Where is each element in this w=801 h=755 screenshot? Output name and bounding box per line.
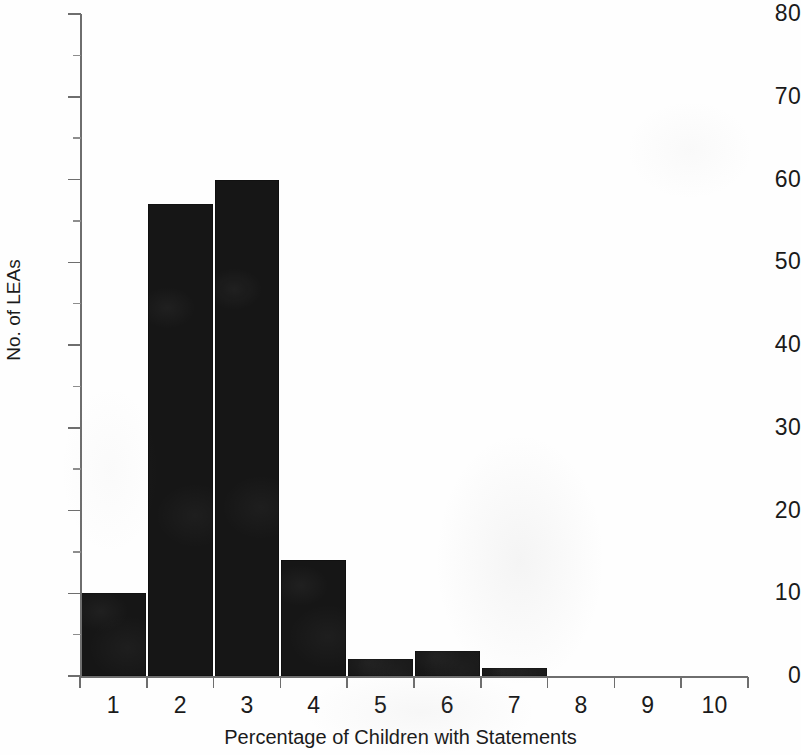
- bar: [482, 668, 547, 676]
- x-tick: [547, 677, 549, 688]
- y-tick-minor: [73, 137, 81, 139]
- x-tick-label: 7: [481, 692, 548, 718]
- x-tick: [79, 677, 81, 688]
- y-tick-major: [68, 13, 81, 15]
- x-tick: [346, 677, 348, 688]
- histogram-figure: 01020304050607080 12345678910 No. of LEA…: [0, 0, 801, 755]
- bar: [348, 659, 413, 676]
- y-tick-minor: [73, 386, 81, 388]
- y-tick-minor: [73, 468, 81, 470]
- y-tick-label: 0: [741, 664, 801, 687]
- x-tick-label: 8: [548, 692, 615, 718]
- bar: [148, 204, 213, 676]
- y-tick-major: [68, 179, 81, 181]
- y-tick-minor: [73, 303, 81, 305]
- y-tick-label: 50: [741, 250, 801, 273]
- y-tick-minor: [73, 220, 81, 222]
- y-tick-major: [68, 593, 81, 595]
- y-tick-label: 10: [741, 581, 801, 604]
- y-tick-minor: [73, 634, 81, 636]
- bar: [415, 651, 480, 676]
- y-tick-label: 60: [741, 168, 801, 191]
- y-tick-major: [68, 427, 81, 429]
- x-tick-label: 5: [347, 692, 414, 718]
- y-tick-major: [68, 344, 81, 346]
- x-tick-label: 2: [147, 692, 214, 718]
- x-tick: [280, 677, 282, 688]
- x-tick-label: 3: [214, 692, 281, 718]
- x-tick: [614, 677, 616, 688]
- x-tick-label: 4: [280, 692, 347, 718]
- y-tick-minor: [73, 551, 81, 553]
- y-tick-major: [68, 262, 81, 264]
- x-tick-label: 1: [80, 692, 147, 718]
- y-tick-label: 30: [741, 416, 801, 439]
- y-tick-major: [68, 96, 81, 98]
- x-tick-label: 9: [614, 692, 681, 718]
- x-tick: [146, 677, 148, 688]
- y-tick-label: 70: [741, 85, 801, 108]
- x-tick: [213, 677, 215, 688]
- x-tick-label: 6: [414, 692, 481, 718]
- bar: [215, 180, 280, 677]
- y-tick-minor: [73, 55, 81, 57]
- plot-area: [80, 14, 748, 676]
- y-tick-label: 40: [741, 333, 801, 356]
- y-axis-title: No. of LEAs: [4, 190, 24, 430]
- x-tick-label: 10: [681, 692, 748, 718]
- y-tick-major: [68, 510, 81, 512]
- x-axis-title: Percentage of Children with Statements: [0, 726, 801, 748]
- x-tick: [680, 677, 682, 688]
- bar: [81, 593, 146, 676]
- x-tick: [413, 677, 415, 688]
- x-tick: [480, 677, 482, 688]
- y-tick-label: 80: [741, 2, 801, 25]
- bar: [281, 560, 346, 676]
- y-tick-label: 20: [741, 499, 801, 522]
